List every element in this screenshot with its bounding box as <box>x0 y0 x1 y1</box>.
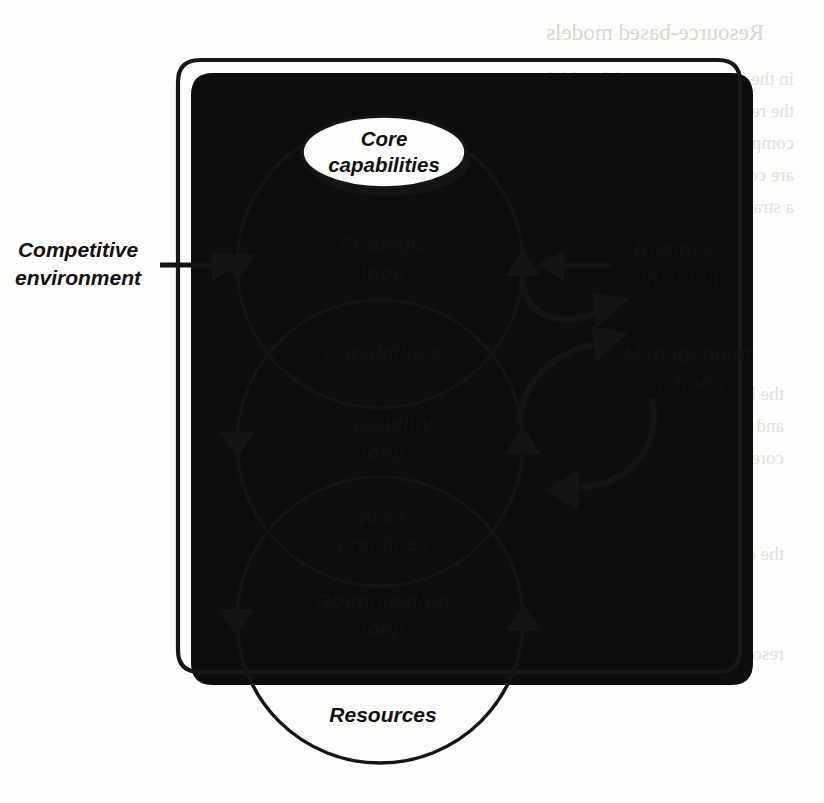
business-mission-label-line2: mission <box>640 266 719 289</box>
bleed-line: core <box>751 447 784 468</box>
core-capabilities-label-line1: Core <box>361 127 408 150</box>
strategic-loop-label-line2: loop <box>361 261 405 284</box>
competitive-environment-label-line1: Competitive <box>18 238 139 261</box>
strategic-loop-label-line1: Strategic <box>338 233 428 256</box>
capability-loop-label-line2: loop <box>361 440 405 463</box>
routinisation-loop-label-line2: loop <box>361 617 405 640</box>
management-actions-label-line1: Management <box>624 342 753 365</box>
management-actions-label-line2: actions <box>651 370 725 393</box>
resources-label: Resources <box>329 703 436 726</box>
routinisation-loop-label-line1: Routinisation <box>316 589 450 612</box>
figure-diagram: Resource-based models in the literature … <box>0 0 824 803</box>
bleed-heading: Resource-based models <box>546 20 764 45</box>
capabilities-label: Capabilities <box>324 340 442 363</box>
core-capabilities-label-line2: capabilities <box>328 153 440 176</box>
competitive-environment-label-line2: environment <box>15 266 142 289</box>
bleed-line: and <box>756 415 784 436</box>
capability-loop-label-line1: Capability <box>333 412 435 435</box>
business-mission-label-line1: Business <box>633 238 726 261</box>
work-practices-label-line1: Work <box>357 505 410 528</box>
page-canvas: Resource-based models in the literature … <box>0 0 824 803</box>
work-practices-label-line2: practices <box>336 532 429 555</box>
